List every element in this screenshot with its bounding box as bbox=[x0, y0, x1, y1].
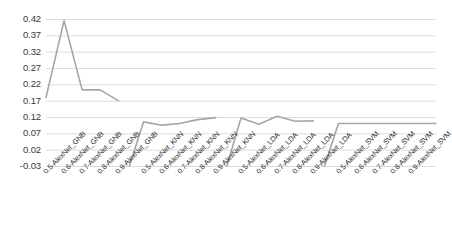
y-axis-tick-label: 0.27 bbox=[23, 63, 41, 73]
y-axis-tick-label: 0.17 bbox=[23, 96, 41, 106]
y-axis-tick-label: -0.03 bbox=[20, 161, 41, 171]
y-axis-tick-label: 0.07 bbox=[23, 128, 41, 138]
y-axis-tick-label: 0.42 bbox=[23, 14, 41, 24]
y-axis-tick-label: 0.32 bbox=[23, 47, 41, 57]
y-axis-tick-label: 0.12 bbox=[23, 112, 41, 122]
y-axis-tick-label: 0.37 bbox=[23, 30, 41, 40]
series-segment-gnb bbox=[46, 21, 118, 101]
y-axis-tick-label: 0.02 bbox=[23, 145, 41, 155]
y-axis-tick-label: 0.22 bbox=[23, 79, 41, 89]
